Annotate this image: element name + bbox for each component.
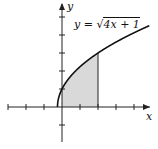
y-axis-arrow-icon bbox=[59, 3, 65, 10]
axis-ticks bbox=[8, 17, 134, 125]
x-axis-label: x bbox=[146, 110, 152, 123]
chart: y x y = √4x + 1 bbox=[0, 0, 158, 149]
y-axis-label: y bbox=[67, 0, 73, 13]
equation-label: y = √4x + 1 bbox=[74, 18, 140, 31]
